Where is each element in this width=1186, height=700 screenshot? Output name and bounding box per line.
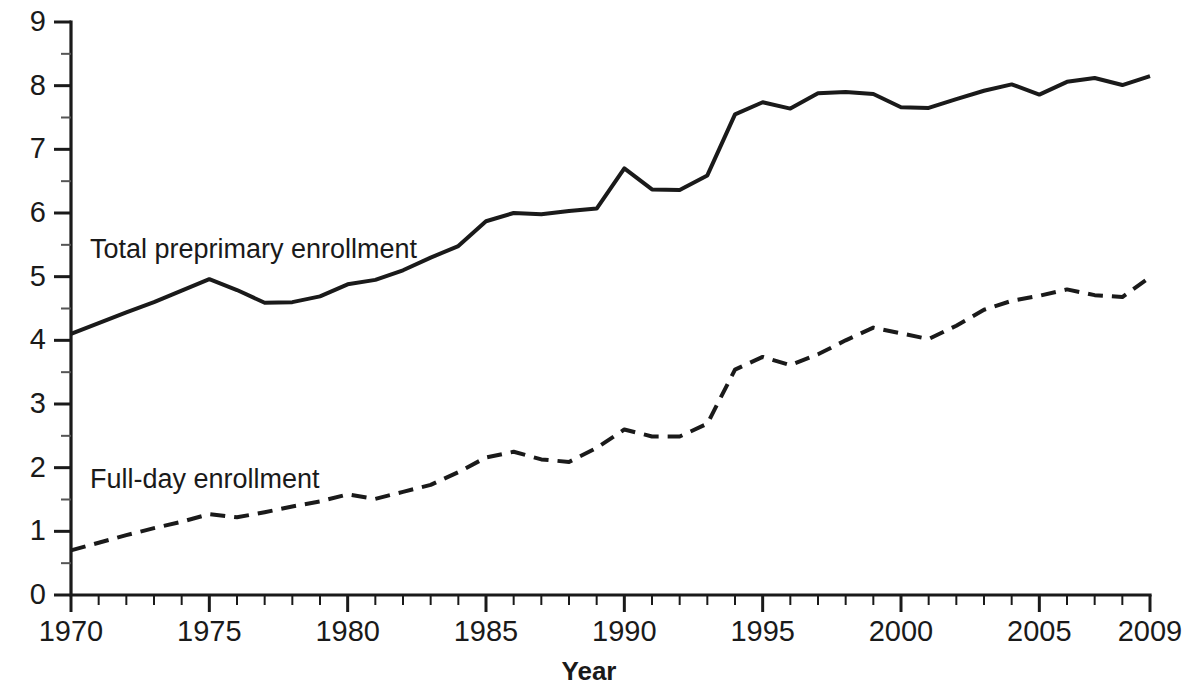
x-axis-tick-label: 2009 [1090,617,1186,646]
y-axis-tick-label: 4 [6,325,46,354]
x-axis-tick-label: 2000 [841,617,961,646]
y-axis-tick-label: 6 [6,198,46,227]
x-axis-tick-label: 1985 [426,617,546,646]
series-line-1 [71,76,1150,334]
x-axis-tick-label: 1970 [11,617,131,646]
y-axis-tick-label: 9 [6,7,46,36]
x-axis-tick-label: 1990 [564,617,684,646]
x-axis-ticks [71,595,1150,612]
y-axis-tick-label: 2 [6,453,46,482]
x-axis-tick-label: 2005 [979,617,1099,646]
x-axis-tick-label: 1980 [288,617,408,646]
x-axis-title: Year [0,658,1178,684]
x-axis-tick-label: 1995 [703,617,823,646]
series-label: Full-day enrollment [90,466,320,493]
y-axis-tick-label: 7 [6,134,46,163]
x-axis-tick-label: 1975 [149,617,269,646]
y-axis-tick-label: 5 [6,262,46,291]
axis-spines [71,22,1150,595]
y-axis-ticks [54,22,71,595]
series-label: Total preprimary enrollment [90,236,417,263]
y-axis-tick-label: 3 [6,389,46,418]
y-axis-tick-label: 0 [6,580,46,609]
series-line-2 [71,277,1150,550]
y-axis-tick-label: 8 [6,71,46,100]
y-axis-tick-label: 1 [6,516,46,545]
